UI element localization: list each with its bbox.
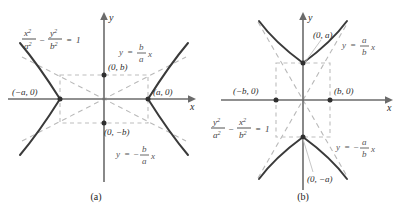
eq-a-den2-exp: 2 [55,40,58,47]
asym-a-neg-var: x [150,151,155,161]
label-right-b: (b, 0) [334,86,354,96]
asym-a-pos-y: y [118,47,123,57]
asym-b-neg-eq: = [344,142,350,152]
label-bottom-b-a: (0, −b) [104,127,130,137]
eq-a-rhs: 1 [76,35,81,45]
eq-a-num1-exp: 2 [28,27,31,34]
caption-b: (b) [297,191,309,203]
equation-b: y2 a2 − x2 b2 = 1 [211,116,270,140]
svg-text:a2: a2 [24,40,32,51]
asym-a-pos-var: x [147,49,152,59]
x-axis-label-b: x [386,102,392,113]
svg-text:b2: b2 [239,129,247,140]
eq-b-den2-exp: 2 [244,129,247,136]
y-axis-arrow-b [299,12,307,20]
caption-a: (a) [90,191,101,203]
asym-b-pos-var: x [370,42,375,52]
panel-a: x y (−a, 0) (a, 0) (0, b) (0, −b) x2 a2 … [0,0,203,211]
y-axis-arrow-a [100,12,108,20]
point-dot-right-vertex-a [146,97,151,102]
asym-a-pos-eq: = [127,47,133,57]
equation-a: x2 a2 − y2 b2 = 1 [22,27,81,51]
asymptote-label-negative-a: y = − b a x [115,144,155,166]
label-left-vertex-a: (−a, 0) [12,87,38,97]
asym-a-neg-den: a [142,156,147,166]
asym-b-neg-var: x [370,144,375,154]
eq-b-den1-exp: 2 [218,129,221,136]
asym-b-pos-eq: = [350,40,356,50]
point-dot-bottom-b-a [102,121,107,126]
svg-text:y: y [118,47,123,57]
hyperbola-figure: x y (−a, 0) (a, 0) (0, b) (0, −b) x2 a2 … [0,0,406,211]
svg-text:x2: x2 [238,116,246,127]
asym-b-pos-y: y [341,40,346,50]
asymptote-label-positive-a: y = b a x [118,42,152,64]
asym-b-neg-sign: − [353,142,359,152]
point-dot-left-b [274,98,279,103]
asym-b-neg-num: a [362,137,367,147]
point-dot-right-b [328,98,333,103]
point-dot-bottom-vertex-b [301,135,306,140]
svg-text:y2: y2 [212,116,220,127]
svg-text:y2: y2 [49,27,57,38]
eq-b-minus: − [228,124,234,134]
asym-a-neg-y: y [115,149,120,159]
eq-a-num2-exp: 2 [54,27,57,34]
label-top-vertex-b: (0, a) [313,30,333,40]
label-bottom-vertex-b: (0, −a) [307,174,333,184]
asym-a-neg-num: b [142,144,147,154]
asym-b-neg-den: b [362,149,367,159]
asym-b-neg-y: y [335,142,340,152]
point-dot-top-vertex-b [301,61,306,66]
label-top-b-a: (0, b) [108,62,128,72]
point-dot-left-vertex-a [58,97,63,102]
asymptote-label-negative-b: y = − a b x [335,137,375,159]
asym-a-neg-eq: = [124,149,130,159]
asym-a-pos-num: b [139,42,144,52]
y-axis-label-a: y [108,12,114,23]
eq-b-equals: = [255,124,261,134]
y-axis-label-b: y [307,12,313,23]
eq-a-minus: − [39,35,45,45]
asym-b-pos-num: a [362,35,367,45]
label-right-vertex-a: (a, 0) [153,87,173,97]
asym-b-pos-den: b [362,47,367,57]
label-left-b: (−b, 0) [233,86,259,96]
eq-b-rhs: 1 [265,124,270,134]
svg-text:x2: x2 [23,27,31,38]
eq-a-den1-exp: 2 [29,40,32,47]
point-dot-top-b-a [102,73,107,78]
asym-a-neg-sign: − [133,149,139,159]
eq-a-equals: = [66,35,72,45]
svg-text:b2: b2 [50,40,58,51]
x-axis-label-a: x [189,101,195,112]
svg-text:a2: a2 [213,129,221,140]
eq-b-num2-exp: 2 [243,116,246,123]
asymptote-label-positive-b: y = a b x [341,35,375,57]
eq-b-num1-exp: 2 [217,116,220,123]
asym-a-pos-den: a [139,54,144,64]
panel-b: x y (−b, 0) (b, 0) (0, a) (0, −a) y2 a2 [203,0,406,211]
